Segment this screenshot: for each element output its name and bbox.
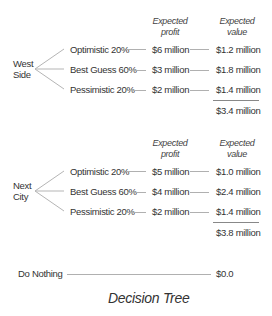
sum-underline [213,100,259,101]
header-expected-value: Expected value [215,16,259,38]
expected-profit: $6 million [152,44,189,55]
connector-line [127,212,146,213]
connector-line [190,49,209,50]
header-expected-profit: Expected profit [148,16,192,38]
expected-value-total: $3.4 million [216,105,260,116]
connector-line [127,192,146,193]
connector-line [190,212,209,213]
connector-line [190,90,209,91]
connector-line [127,70,146,71]
expected-value-total: $3.8 million [216,227,260,238]
option-label: Next City [13,180,31,202]
connector-line [190,192,209,193]
expected-profit: $5 million [152,166,189,177]
expected-value: $1.4 million [216,206,260,217]
expected-value: $1.4 million [216,84,260,95]
sum-underline [213,222,259,223]
expected-value: $1.2 million [216,44,260,55]
scenario-label: Optimistic 20% [70,44,129,55]
connector-line [127,90,146,91]
expected-value: $1.0 million [216,166,260,177]
scenario-label: Optimistic 20% [70,166,129,177]
connector-line [190,70,209,71]
connector-line [67,274,211,275]
expected-value: $1.8 million [216,64,260,75]
option-label: West Side [13,58,33,80]
expected-profit: $3 million [152,64,189,75]
option-label: Do Nothing [18,268,63,279]
expected-value: $2.4 million [216,186,260,197]
expected-value: $0.0 [216,268,233,279]
diagram-title: Decision Tree [108,290,189,306]
expected-profit: $2 million [152,84,189,95]
connector-line [190,171,209,172]
header-expected-value: Expected value [215,138,259,160]
header-expected-profit: Expected profit [148,138,192,160]
expected-profit: $4 million [152,186,189,197]
connector-line [127,49,146,50]
scenario-label: Pessimistic 20% [70,84,135,95]
connector-line [127,171,146,172]
scenario-label: Pessimistic 20% [70,206,135,217]
expected-profit: $2 million [152,206,189,217]
